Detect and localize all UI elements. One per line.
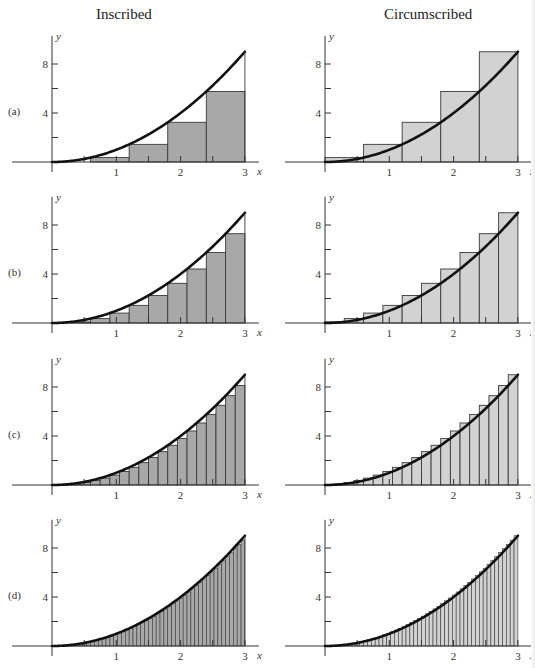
riemann-bar [460,589,464,646]
riemann-bar [479,572,483,646]
page-edge-shadow [531,0,535,668]
riemann-bar [487,564,491,646]
riemann-bar [510,540,514,646]
x-tick-label: 1 [387,650,393,662]
x-tick-label: 3 [515,650,521,662]
riemann-bar [448,598,452,646]
riemann-bar [499,553,503,646]
riemann-bar [475,575,479,646]
riemann-bar [429,611,433,646]
riemann-bar [418,618,422,646]
riemann-bar [483,568,487,646]
riemann-bar [421,616,425,646]
riemann-bar [506,544,510,646]
riemann-bar [433,609,437,646]
y-tick-label: 4 [316,591,322,603]
riemann-bar [491,561,495,646]
riemann-bar [495,557,499,646]
riemann-bar [468,582,472,646]
riemann-bar [406,625,410,646]
chart-circumscribed-d: 48123xy [0,0,535,668]
riemann-bar [410,623,414,646]
riemann-bar [425,614,429,646]
riemann-bar [441,604,445,646]
riemann-bar [502,549,506,646]
riemann-bar [514,536,518,646]
y-tick-label: 8 [316,542,322,554]
riemann-bar [437,606,441,646]
riemann-bar [464,586,468,646]
riemann-bar [414,621,418,646]
riemann-bar [452,595,456,646]
riemann-bar [472,579,476,646]
y-axis-label: y [328,514,334,526]
x-tick-label: 2 [451,650,457,662]
riemann-bar [445,601,449,646]
riemann-bar [456,592,460,646]
